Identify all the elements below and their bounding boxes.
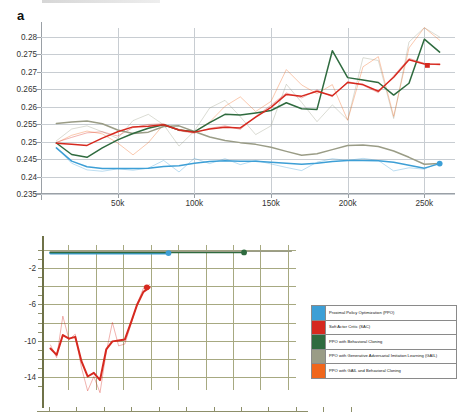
panel-b-x-tickmark — [241, 407, 242, 412]
panel-a: a 0.2350.240.2450.250.2550.260.2650.270.… — [0, 0, 461, 222]
panel-b-x-tickmark — [323, 407, 324, 412]
panel-b-x-tickmark — [131, 407, 132, 412]
panel-a-hgridline — [41, 194, 455, 195]
panel-a-y-tick-9: 0.28 — [21, 32, 37, 41]
panel-b-x-tickmark — [214, 407, 215, 412]
panel-b-x-tickmark — [186, 407, 187, 412]
panel-b-x-tickmark — [268, 407, 269, 412]
panel-a-series-lines — [41, 28, 455, 194]
panel-a-y-tick-7: 0.27 — [21, 67, 37, 76]
panel-a-plot-area: 0.2350.240.2450.250.2550.260.2650.270.27… — [41, 28, 455, 194]
panel-a-x-tickmark — [194, 194, 195, 198]
panel-b-y-tick-3: -14 — [24, 372, 36, 381]
panel-a-x-tick-2: 150k — [262, 199, 280, 208]
legend-swatch-ppo_gail_bc — [312, 364, 326, 378]
legend: Proximal Policy Optimization (PPO)Soft A… — [311, 305, 457, 379]
legend-item-ppo_gail_bc[interactable]: PPO with GAIL and Behavioral Cloning — [312, 364, 456, 378]
panel-a-y-tickmark — [37, 194, 41, 195]
panel-b-y-tick-1: -6 — [29, 300, 36, 309]
panel-a-x-tickmark — [424, 194, 425, 198]
panel-a-y-tick-2: 0.245 — [17, 155, 38, 164]
legend-swatch-ppo — [312, 306, 326, 320]
legend-item-ppo_gail[interactable]: PPO with Generative Adversarial Imitatio… — [312, 350, 456, 365]
panel-b-x-axis — [37, 411, 308, 412]
legend-item-sac[interactable]: Soft Actor Critic (SAC) — [312, 321, 456, 336]
panel-b-series-lines — [41, 245, 296, 390]
panel-a-y-tick-8: 0.275 — [17, 50, 38, 59]
legend-swatch-ppo_bc — [312, 335, 326, 349]
legend-item-ppo_bc[interactable]: PPO with Behavioral Cloning — [312, 335, 456, 350]
figure-root: a 0.2350.240.2450.250.2550.260.2650.270.… — [0, 0, 461, 416]
legend-label-ppo_gail_bc: PPO with GAIL and Behavioral Cloning — [326, 364, 456, 378]
panel-b-endpoint-marker — [166, 250, 172, 256]
panel-b-x-tickmark — [351, 407, 352, 412]
panel-a-x-tick-1: 100k — [185, 199, 203, 208]
panel-a-x-tickmark — [118, 194, 119, 198]
panel-a-x-tick-0: 50k — [111, 199, 124, 208]
panel-b-x-tickmark — [296, 407, 297, 412]
panel-a-endpoint-marker — [425, 63, 430, 68]
panel-a-y-tick-6: 0.265 — [17, 85, 38, 94]
panel-b-x-tickmark — [159, 407, 160, 412]
panel-b-y-tick-2: -10 — [24, 336, 36, 345]
panel-b-y-tick-0: -2 — [29, 264, 36, 273]
panel-a-x-tickmark — [348, 194, 349, 198]
panel-a-label: a — [17, 9, 24, 22]
panel-a-y-tick-3: 0.25 — [21, 137, 37, 146]
panel-b-x-tickmark — [76, 407, 77, 412]
legend-label-ppo: Proximal Policy Optimization (PPO) — [326, 306, 456, 320]
legend-swatch-sac — [312, 321, 326, 335]
panel-b-x-tickmark — [49, 407, 50, 412]
legend-label-ppo_bc: PPO with Behavioral Cloning — [326, 335, 456, 349]
legend-label-ppo_gail: PPO with Generative Adversarial Imitatio… — [326, 350, 456, 364]
legend-item-ppo[interactable]: Proximal Policy Optimization (PPO) — [312, 306, 456, 321]
panel-b: b -2-6-10-14 — [0, 222, 310, 416]
panel-b-plot-area: -2-6-10-14 — [41, 245, 296, 390]
panel-a-y-tick-4: 0.255 — [17, 120, 38, 129]
panel-b-x-tickmark — [104, 407, 105, 412]
panel-b-endpoint-marker — [241, 249, 247, 255]
panel-b-endpoint-marker — [144, 284, 150, 290]
legend-label-sac: Soft Actor Critic (SAC) — [326, 321, 456, 335]
panel-a-y-tick-0: 0.235 — [17, 190, 38, 199]
panel-a-x-tickmark — [271, 194, 272, 198]
legend-swatch-ppo_gail — [312, 350, 326, 364]
panel-a-y-tick-5: 0.26 — [21, 102, 37, 111]
panel-a-x-tick-3: 200k — [339, 199, 357, 208]
panel-a-x-tick-4: 250k — [415, 199, 433, 208]
panel-a-y-tick-1: 0.24 — [21, 172, 37, 181]
panel-a-endpoint-marker — [437, 161, 443, 167]
